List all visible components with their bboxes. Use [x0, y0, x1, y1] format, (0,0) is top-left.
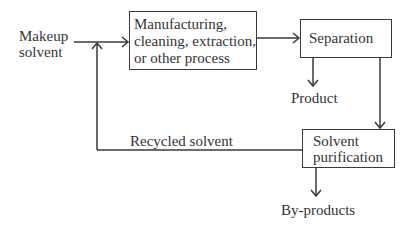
separation-box-label: Separation [309, 30, 373, 46]
byproducts-label: By-products [281, 202, 355, 218]
purification-box-line2: purification [313, 149, 383, 165]
process-flow-diagram: Makeup solvent Manufacturing, cleaning, … [0, 0, 416, 228]
purification-box-line1: Solvent [313, 133, 359, 149]
makeup-label-line1: Makeup [19, 28, 68, 44]
purification-box: Solvent purification [302, 129, 395, 168]
recycled-solvent-label: Recycled solvent [130, 133, 233, 149]
makeup-solvent-label: Makeup solvent [19, 28, 68, 60]
process-box-line3: or other process [134, 50, 230, 66]
separation-box: Separation [300, 19, 392, 58]
product-label: Product [291, 90, 338, 106]
process-box: Manufacturing, cleaning, extraction, or … [129, 11, 257, 70]
process-box-line1: Manufacturing, [134, 16, 227, 32]
makeup-label-line2: solvent [19, 44, 68, 60]
process-box-line2: cleaning, extraction, [134, 33, 256, 49]
